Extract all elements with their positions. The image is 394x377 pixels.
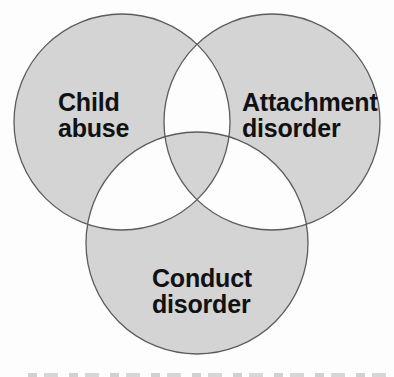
- label-attachment-disorder: Attachment disorder: [242, 89, 378, 141]
- cropped-caption-remnant: [28, 373, 392, 377]
- venn-diagram-canvas: [0, 0, 394, 377]
- label-conduct-disorder: Conduct disorder: [152, 265, 252, 317]
- label-child-abuse: Child abuse: [58, 89, 129, 141]
- venn-diagram-figure: Child abuse Attachment disorder Conduct …: [0, 0, 394, 377]
